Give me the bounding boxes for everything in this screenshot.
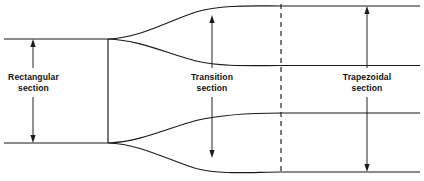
label-rectangular-section: Rectangular section [0,71,67,95]
label-rectangular-line2: section [2,83,65,94]
label-trapezoidal-section: Trapezoidal section [329,71,405,95]
label-transition-line2: section [180,83,244,94]
rectangular-dim-arrowhead-top [30,39,35,47]
label-transition-line1: Transition [180,72,244,83]
label-transition-section: Transition section [178,71,246,95]
transition-lower-outer-wall [108,143,281,173]
label-rectangular-line1: Rectangular [2,72,65,83]
transition-dim-arrowhead-top [209,15,214,23]
transition-upper-inner-wall [108,39,281,66]
label-trapezoidal-line2: section [331,83,403,94]
label-trapezoidal-line1: Trapezoidal [331,72,403,83]
transition-dim-arrowhead-bottom [209,150,214,158]
transition-lower-inner-wall [108,113,281,143]
rectangular-dim-arrowhead-bottom [30,135,35,143]
channel-transition-diagram: Rectangular section Transition section T… [0,0,424,181]
trapezoidal-dim-arrowhead-bottom [364,164,369,172]
trapezoidal-dim-arrowhead-top [364,6,369,14]
transition-upper-outer-wall [108,6,281,39]
